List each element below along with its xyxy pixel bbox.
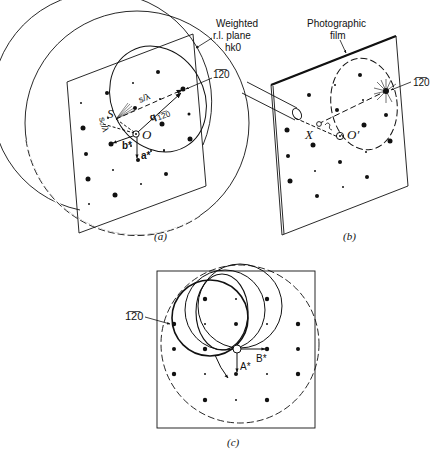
panel-c-caption: (c): [227, 436, 240, 449]
panel-b-caption: (b): [343, 230, 356, 243]
reflection-spot-b: [383, 88, 389, 94]
film-leader: [340, 40, 346, 53]
reflection-label-a: 1̅2̅0: [213, 69, 230, 80]
axis-A-label: A*: [240, 361, 251, 372]
reflection-sphere: [91, 28, 226, 169]
limiting-circle-dashed: [26, 140, 200, 236]
crystal-marker: [317, 122, 322, 127]
reflection-circle-4: [196, 274, 248, 350]
film-label-line2: film: [330, 30, 346, 41]
plane-leader: [196, 38, 212, 48]
panel-a-caption: (a): [154, 230, 167, 243]
panel-c: 1̅2̅0 A* B* (c): [125, 264, 319, 449]
plane-label-line3: hk0: [225, 42, 242, 53]
plane-label-line1: Weighted: [216, 18, 258, 29]
axis-b-label: b*: [122, 140, 132, 151]
film-label-line1: Photographic: [307, 18, 366, 29]
reflection-label-b: 1̅2̅0: [413, 77, 430, 88]
panel-a: Weighted r.l. plane hk0 1̅2̅0 S O s/λ s₀…: [0, 0, 258, 243]
reflection-leader-c: [145, 317, 170, 324]
limiting-circle: [0, 0, 212, 210]
reflection-leader-b: [391, 82, 411, 90]
vector-q-subscript: 1̅2̅0: [156, 109, 172, 122]
reflection-leader-a: [186, 78, 212, 89]
reflection-circle-2: [185, 270, 265, 350]
beam-axis: [295, 118, 338, 137]
limiting-circle-full: [25, 11, 249, 235]
vector-s-label: s/λ: [137, 91, 152, 105]
plane-label-line2: r.l. plane: [213, 30, 251, 41]
ray-fan: [116, 103, 135, 119]
origin-marker-c: [233, 345, 241, 353]
panel-b: Photographic film 1̅2̅0 X O′ (b): [242, 18, 430, 243]
diffracted-beam: [318, 91, 386, 124]
reflection-label-c: 1̅2̅0: [125, 310, 143, 322]
reflection-circle-3: [198, 264, 282, 348]
axis-B-label: B*: [256, 353, 267, 364]
point-X-label: X: [304, 127, 314, 142]
point-O-label: O: [142, 127, 152, 142]
point-O-prime-label: O′: [347, 127, 359, 142]
diffraction-diagram: Weighted r.l. plane hk0 1̅2̅0 S O s/λ s₀…: [0, 0, 442, 466]
rotation-arrow: [215, 355, 228, 378]
axis-a-label: a*: [141, 150, 151, 161]
